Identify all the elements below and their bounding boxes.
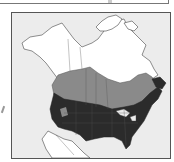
previous-figure-frame	[0, 0, 169, 4]
range-map	[12, 13, 170, 158]
range-map-frame	[11, 12, 171, 159]
previous-figure-mark	[108, 0, 112, 3]
stray-mark	[1, 106, 5, 113]
